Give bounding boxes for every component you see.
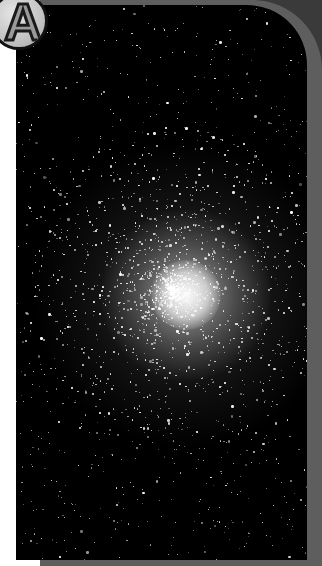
panel-label: A <box>4 0 42 48</box>
star-cluster-photo <box>16 5 307 560</box>
core-glow <box>151 260 221 330</box>
